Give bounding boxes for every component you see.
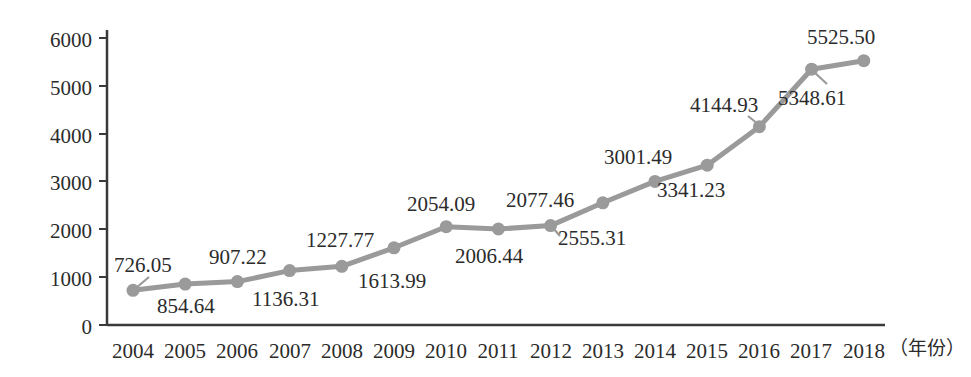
x-tick-label-2016: 2016 bbox=[729, 341, 789, 362]
x-tick-label-2014: 2014 bbox=[625, 341, 685, 362]
y-tick-label-2000: 2000 bbox=[26, 221, 92, 242]
x-tick-label-2005: 2005 bbox=[155, 341, 215, 362]
data-label-2007: 1136.31 bbox=[252, 289, 319, 310]
x-tick-label-2017: 2017 bbox=[781, 341, 841, 362]
data-label-2013: 2555.31 bbox=[558, 228, 626, 249]
data-label-2006: 907.22 bbox=[209, 247, 267, 268]
x-tick-label-2007: 2007 bbox=[260, 341, 320, 362]
chart-canvas bbox=[0, 0, 971, 377]
data-label-2018: 5525.50 bbox=[807, 27, 875, 48]
x-tick-label-2011: 2011 bbox=[468, 341, 528, 362]
x-tick-label-2015: 2015 bbox=[677, 341, 737, 362]
x-tick-label-2012: 2012 bbox=[521, 341, 581, 362]
x-axis-caption: （年份） bbox=[889, 339, 965, 358]
data-label-2015: 3341.23 bbox=[657, 180, 725, 201]
x-tick-label-2004: 2004 bbox=[103, 341, 163, 362]
data-label-2011: 2006.44 bbox=[455, 246, 523, 267]
y-tick-label-1000: 1000 bbox=[26, 269, 92, 290]
line-chart: 0 1000 2000 3000 4000 5000 6000 2004 200… bbox=[0, 0, 971, 377]
data-label-2005: 854.64 bbox=[157, 296, 215, 317]
x-tick-label-2009: 2009 bbox=[364, 341, 424, 362]
y-tick-label-4000: 4000 bbox=[26, 126, 92, 147]
data-label-2014: 3001.49 bbox=[604, 147, 672, 168]
y-tick-label-5000: 5000 bbox=[26, 78, 92, 99]
x-tick-label-2018: 2018 bbox=[834, 341, 894, 362]
x-tick-label-2008: 2008 bbox=[312, 341, 372, 362]
data-label-2010: 2054.09 bbox=[407, 194, 475, 215]
x-tick-label-2010: 2010 bbox=[416, 341, 476, 362]
x-tick-label-2006: 2006 bbox=[207, 341, 267, 362]
y-tick-label-6000: 6000 bbox=[26, 30, 92, 51]
data-label-2004: 726.05 bbox=[114, 255, 172, 276]
y-tick-label-0: 0 bbox=[26, 317, 92, 338]
y-tick-label-3000: 3000 bbox=[26, 173, 92, 194]
data-label-2016: 4144.93 bbox=[690, 95, 758, 116]
data-label-2008: 1227.77 bbox=[306, 230, 374, 251]
data-label-2009: 1613.99 bbox=[358, 271, 426, 292]
data-label-2012: 2077.46 bbox=[506, 190, 574, 211]
data-label-2017: 5348.61 bbox=[778, 88, 846, 109]
x-tick-label-2013: 2013 bbox=[573, 341, 633, 362]
